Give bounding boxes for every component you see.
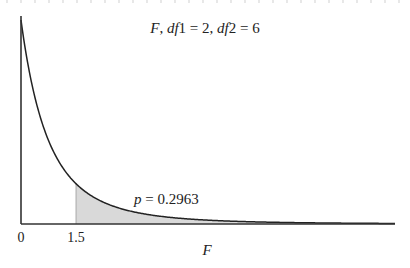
f-distribution-chart: F, df1 = 2, df2 = 6 p = 0.2963 0 1.5 F [0,0,410,268]
x-axis-label: F [201,242,212,258]
title-df1-value: = 2 [186,20,209,36]
title-sep: , [159,20,167,36]
p-value: 0.2963 [157,191,198,207]
p-equals: = [142,191,158,207]
title-df2-value: = 6 [236,20,260,36]
title-df2-index: 2 [229,20,237,36]
x-tick-label-0: 0 [18,230,25,245]
p-value-annotation: p = 0.2963 [133,191,199,207]
x-tick-label-1: 1.5 [67,230,85,245]
p-value-shaded-region [76,184,395,224]
chart-title: F, df1 = 2, df2 = 6 [149,20,260,36]
title-sep: , [210,20,218,36]
title-df1-index: 1 [179,20,187,36]
